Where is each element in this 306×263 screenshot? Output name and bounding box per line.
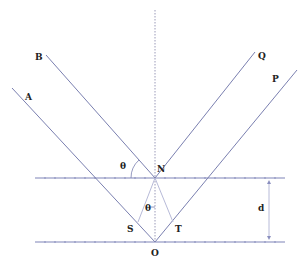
label-theta-top: θ [120, 161, 126, 171]
label-a: A [24, 92, 33, 102]
label-d: d [258, 203, 265, 213]
label-t: T [175, 224, 182, 234]
label-theta-inner: θ [145, 203, 151, 213]
bottom-surface [35, 241, 285, 243]
label-q: Q [258, 51, 266, 61]
incident-ray-b [46, 55, 155, 178]
label-n: N [157, 164, 165, 174]
theta-arc-top [131, 160, 139, 178]
label-s: S [127, 224, 134, 234]
thin-film-reflection-diagram: A B Q P N O S T d θ θ [0, 0, 306, 263]
label-b: B [35, 52, 43, 62]
label-o: O [151, 248, 159, 258]
incident-ray-a [12, 88, 155, 242]
reflected-ray-q [155, 52, 255, 178]
line-ns [138, 178, 155, 222]
label-p: P [272, 74, 279, 84]
line-nt [155, 178, 173, 222]
top-surface [35, 177, 285, 179]
reflected-ray-p [155, 70, 297, 242]
separation-arrow [267, 180, 271, 240]
